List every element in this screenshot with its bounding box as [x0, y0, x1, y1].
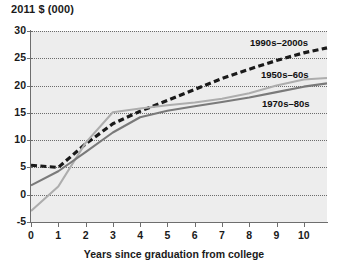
- x-tick: [304, 223, 305, 227]
- x-tick-label: 8: [239, 230, 259, 241]
- x-tick-label: 1: [48, 230, 68, 241]
- series-label: 1950s–60s: [261, 69, 309, 80]
- x-tick-label: 7: [212, 230, 232, 241]
- x-tick: [249, 223, 250, 227]
- y-tick-label: 0: [2, 189, 26, 199]
- y-tick-label: 10: [2, 134, 26, 144]
- y-tick: [27, 113, 31, 114]
- x-tick: [58, 223, 59, 227]
- x-axis-title: Years since graduation from college: [0, 248, 348, 260]
- y-tick: [27, 167, 31, 168]
- x-tick: [31, 223, 32, 227]
- plot-area: [31, 31, 327, 222]
- y-tick-label: 5: [2, 161, 26, 171]
- x-tick-label: 4: [130, 230, 150, 241]
- x-tick-label: 5: [157, 230, 177, 241]
- series-label: 1990s–2000s: [250, 37, 308, 48]
- x-tick-label: 10: [294, 230, 314, 241]
- y-tick-label: 25: [2, 52, 26, 62]
- x-tick-label: 0: [21, 230, 41, 241]
- y-tick: [27, 86, 31, 87]
- x-axis-line: [30, 222, 328, 223]
- y-tick-label: 30: [2, 25, 26, 35]
- x-tick-label: 6: [185, 230, 205, 241]
- y-tick: [27, 58, 31, 59]
- x-tick: [167, 223, 168, 227]
- y-axis-labels: 302520151050-5: [0, 0, 26, 268]
- x-tick: [222, 223, 223, 227]
- y-tick-label: 20: [2, 80, 26, 90]
- y-tick: [27, 195, 31, 196]
- x-tick-label: 9: [267, 230, 287, 241]
- chart-container: 2011 $ (000) 302520151050-5 012345678910…: [0, 0, 348, 268]
- x-tick: [113, 223, 114, 227]
- x-tick-label: 3: [103, 230, 123, 241]
- x-tick: [140, 223, 141, 227]
- x-tick: [277, 223, 278, 227]
- y-tick-label: -5: [2, 216, 26, 226]
- x-tick: [195, 223, 196, 227]
- y-tick: [27, 140, 31, 141]
- series-label: 1970s–80s: [262, 98, 310, 109]
- x-tick: [86, 223, 87, 227]
- y-tick-label: 15: [2, 107, 26, 117]
- series-lines: [31, 31, 327, 222]
- y-tick: [27, 31, 31, 32]
- x-tick-label: 2: [76, 230, 96, 241]
